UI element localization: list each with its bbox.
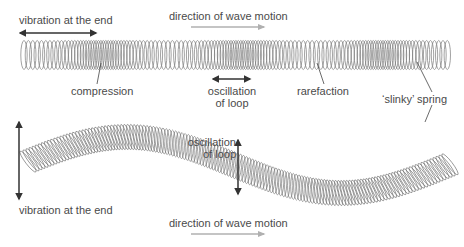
top-direction-label: direction of wave motion xyxy=(169,10,288,22)
bottom-slinky-spring xyxy=(18,124,460,206)
bottom-vibration-label: vibration at the end xyxy=(19,204,113,216)
top-oscillation-line2: of loop xyxy=(205,97,259,109)
slinky-pointer-bottom xyxy=(425,105,432,122)
top-slinky-spring xyxy=(21,41,451,70)
bottom-direction-label: direction of wave motion xyxy=(169,217,288,229)
compression-label: compression xyxy=(71,85,133,97)
slinky-label: ‘slinky’ spring xyxy=(382,93,447,105)
bottom-oscillation-line2: of loop xyxy=(180,148,236,160)
bottom-oscillation-line1: oscillation xyxy=(180,136,236,148)
top-vibration-label: vibration at the end xyxy=(19,14,113,26)
top-oscillation-line1: oscillation xyxy=(205,85,259,97)
top-oscillation-label: oscillation of loop xyxy=(205,85,259,109)
bottom-oscillation-label: oscillation of loop xyxy=(180,136,236,160)
rarefaction-label: rarefaction xyxy=(297,85,349,97)
